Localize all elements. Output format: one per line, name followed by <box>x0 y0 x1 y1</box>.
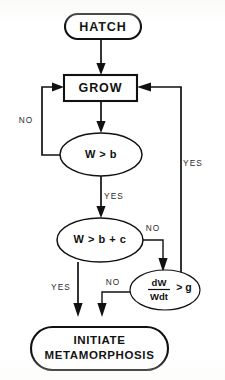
growth-rate-relation: > g <box>176 281 191 293</box>
edge-label-w-gt-b-plus-c-yes: YES <box>51 282 71 292</box>
w-gt-b-plus-c-label: W > b + c <box>74 233 127 245</box>
edge-growth-rate-no-to-initiate <box>97 292 130 317</box>
w-gt-b-label: W > b <box>85 148 117 160</box>
flowchart-canvas: NO YES NO YES NO YES HATCH GROW W > b W … <box>0 0 225 380</box>
edge-grow-to-w-gt-b <box>96 101 105 133</box>
node-initiate-metamorphosis: INITIATE METAMORPHOSIS <box>31 327 168 370</box>
node-grow: GROW <box>64 75 137 101</box>
edge-label-w-gt-b-plus-c-no: NO <box>146 223 161 233</box>
initiate-metamorphosis-label-line1: INITIATE <box>74 334 126 346</box>
node-hatch: HATCH <box>65 14 141 39</box>
grow-label: GROW <box>79 81 123 95</box>
edge-label-growth-rate-no: NO <box>106 277 121 287</box>
edge-label-growth-rate-yes: YES <box>183 158 203 168</box>
edge-w-gt-b-no-to-grow <box>42 82 64 155</box>
edge-label-w-gt-b-yes: YES <box>104 191 124 201</box>
edge-label-w-gt-b-no: NO <box>19 115 34 125</box>
node-w-gt-b-plus-c: W > b + c <box>57 218 143 262</box>
edge-w-gt-b-plus-c-yes-to-initiate <box>73 262 82 317</box>
flowchart-diagram: NO YES NO YES NO YES HATCH GROW W > b W … <box>0 0 225 380</box>
node-growth-rate: dW Wdt > g <box>130 270 200 310</box>
edge-hatch-to-grow <box>96 40 105 75</box>
growth-rate-denominator: Wdt <box>150 291 169 302</box>
growth-rate-numerator: dW <box>152 277 167 288</box>
node-w-gt-b: W > b <box>60 133 142 176</box>
edge-w-gt-b-plus-c-no-to-growth-rate <box>142 240 168 272</box>
initiate-metamorphosis-label-line2: METAMORPHOSIS <box>45 349 155 361</box>
hatch-label: HATCH <box>79 20 126 34</box>
